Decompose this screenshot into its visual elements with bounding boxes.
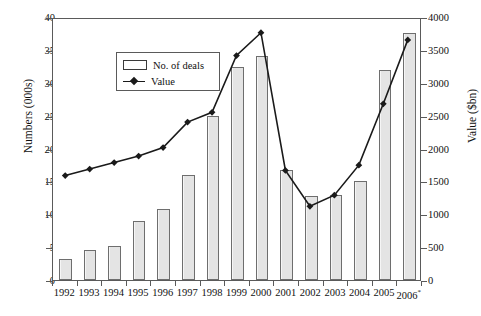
x-axis-tickmark-6 — [200, 281, 201, 286]
y-axis-right-tickmark-3500 — [421, 51, 427, 52]
value-marker-1994 — [111, 159, 118, 166]
y-axis-right-tickmark-2000 — [421, 150, 427, 151]
x-axis-tick-2006: 2006* — [391, 287, 427, 301]
y-axis-right-tick-0: 0 — [428, 276, 433, 286]
x-axis-tickmark-14 — [396, 281, 397, 286]
value-marker-1995 — [135, 153, 142, 160]
legend-item-value: Value — [123, 73, 214, 89]
y-axis-right-tick-500: 500 — [428, 243, 444, 253]
chart-legend: No. of deals Value — [116, 52, 220, 91]
y-axis-right-tickmark-500 — [421, 248, 427, 249]
x-axis-tickmark-4 — [150, 281, 151, 286]
legend-label-value: Value — [151, 76, 175, 87]
y-axis-right-tick-4000: 4000 — [428, 13, 449, 23]
value-marker-1992 — [62, 172, 69, 179]
y-axis-right-tickmark-4000 — [421, 18, 427, 19]
y-axis-right-tick-2500: 2500 — [428, 112, 449, 122]
x-axis-tickmark-10 — [298, 281, 299, 286]
x-axis-tickmark-3 — [126, 281, 127, 286]
x-axis-tickmark-13 — [372, 281, 373, 286]
y-axis-right-tick-2000: 2000 — [428, 145, 449, 155]
y-axis-right-tick-3500: 3500 — [428, 46, 449, 56]
line-diamond-swatch-icon — [123, 77, 145, 85]
y-axis-right-tick-3000: 3000 — [428, 79, 449, 89]
x-axis-tickmark-1 — [77, 281, 78, 286]
y-axis-right-tickmark-2500 — [421, 117, 427, 118]
y-axis-right-tickmark-1500 — [421, 182, 427, 183]
y-axis-right-tickmark-1000 — [421, 215, 427, 216]
y-axis-right-tickmark-3000 — [421, 84, 427, 85]
plot-area: No. of deals Value — [52, 18, 421, 281]
x-axis-tickmark-5 — [175, 281, 176, 286]
x-axis-tickmark-2 — [101, 281, 102, 286]
y-axis-right-tick-1000: 1000 — [428, 210, 449, 220]
x-axis-tickmark-7 — [224, 281, 225, 286]
x-axis-tickmark-12 — [347, 281, 348, 286]
legend-label-deals: No. of deals — [153, 60, 204, 71]
y-axis-right-tick-1500: 1500 — [428, 177, 449, 187]
value-marker-2006 — [404, 37, 411, 44]
y-axis-left-title: Numbers (000s) — [22, 26, 34, 206]
chart-container: Numbers (000s) Value ($bn) 0510152025303… — [0, 0, 481, 316]
y-axis-right-title: Value ($bn) — [466, 26, 478, 206]
x-axis-tickmark-8 — [249, 281, 250, 286]
legend-item-deals: No. of deals — [123, 57, 214, 73]
value-marker-2005 — [380, 100, 387, 107]
x-axis-tickmark-0 — [52, 281, 53, 286]
bar-swatch-icon — [123, 60, 147, 70]
x-axis-tickmark-11 — [323, 281, 324, 286]
line-series-layer — [53, 19, 420, 280]
value-marker-1993 — [86, 166, 93, 173]
x-axis-tickmark-end — [421, 281, 422, 286]
x-axis-tickmark-9 — [273, 281, 274, 286]
value-marker-1998 — [209, 109, 216, 116]
